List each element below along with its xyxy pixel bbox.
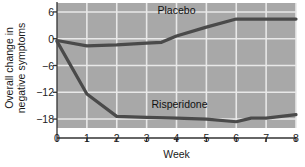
y-tick-label-1: 0 bbox=[26, 33, 54, 45]
series-label-placebo: Placebo bbox=[158, 4, 196, 16]
x-tick-label-8: 8 bbox=[286, 132, 305, 144]
y-axis-title-line1: Overall change in bbox=[3, 27, 15, 109]
x-axis-title: Week bbox=[57, 148, 296, 160]
y-tick-label-4: −18 bbox=[26, 113, 54, 125]
series-label-risperidone: Risperidone bbox=[151, 98, 207, 110]
x-tick-label-4: 4 bbox=[167, 132, 187, 144]
x-tick-label-1: 1 bbox=[77, 132, 97, 144]
x-tick-label-3: 3 bbox=[137, 132, 157, 144]
x-tick-label-2: 2 bbox=[107, 132, 127, 144]
x-tick-label-5: 5 bbox=[196, 132, 216, 144]
x-tick-label-7: 7 bbox=[256, 132, 276, 144]
x-tick-label-0: 0 bbox=[47, 132, 67, 144]
y-tick-label-0: 6 bbox=[26, 6, 54, 18]
y-tick-label-2: −6 bbox=[26, 60, 54, 72]
y-tick-label-3: −12 bbox=[26, 86, 54, 98]
x-tick-label-6: 6 bbox=[226, 132, 246, 144]
